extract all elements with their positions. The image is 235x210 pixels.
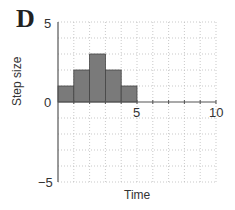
bar [121,86,137,102]
y-tick-0: 0 [44,96,51,109]
y-tick-5: 5 [44,17,51,30]
bar [90,54,106,102]
y-tick-minus5: −5 [38,176,53,189]
bar [58,86,74,102]
x-tick-10: 10 [209,106,223,119]
x-axis-label: Time [124,188,150,202]
bar [105,70,121,102]
bars [58,54,137,102]
bar [74,70,90,102]
step-chart [0,0,235,210]
x-tick-5: 5 [133,106,140,119]
y-axis-label: Step size [10,57,24,106]
